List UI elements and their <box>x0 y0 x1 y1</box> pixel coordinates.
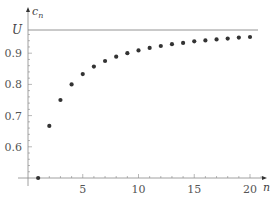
y-tick-label: 0.9 <box>5 47 23 60</box>
data-point <box>58 98 62 102</box>
y-axis-arrow-icon <box>26 7 30 12</box>
y-tick-label: 0.6 <box>5 141 23 154</box>
data-point <box>159 44 163 48</box>
chart: 51015200.60.70.80.9Ucnn <box>0 0 272 198</box>
data-point <box>125 51 129 55</box>
axes <box>18 7 267 186</box>
u-label: U <box>12 23 23 37</box>
data-point <box>114 55 118 59</box>
data-point <box>148 46 152 50</box>
data-point <box>248 35 252 39</box>
data-point <box>170 42 174 46</box>
axis-labels: 51015200.60.70.80.9Ucnn <box>5 5 271 196</box>
data-point <box>203 38 207 42</box>
data-point <box>136 48 140 52</box>
x-tick-label: 10 <box>132 183 146 196</box>
y-tick-label: 0.7 <box>5 110 23 123</box>
data-points <box>36 35 252 180</box>
y-axis-label: cn <box>32 5 43 20</box>
data-point <box>181 41 185 45</box>
data-point <box>36 176 40 180</box>
x-tick-label: 15 <box>187 183 201 196</box>
data-point <box>92 65 96 69</box>
x-tick-label: 20 <box>243 183 257 196</box>
data-point <box>70 82 74 86</box>
data-point <box>103 59 107 63</box>
data-point <box>226 36 230 40</box>
y-tick-label: 0.8 <box>5 78 23 91</box>
x-axis-arrow-icon <box>262 176 267 180</box>
data-point <box>192 39 196 43</box>
data-point <box>214 37 218 41</box>
x-tick-label: 5 <box>79 183 86 196</box>
data-point <box>237 36 241 40</box>
data-point <box>81 72 85 76</box>
x-axis-label: n <box>263 181 270 194</box>
data-point <box>47 124 51 128</box>
